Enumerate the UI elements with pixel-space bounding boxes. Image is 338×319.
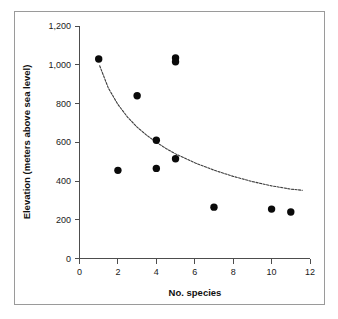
- data-points-group: [95, 54, 294, 215]
- data-point: [268, 205, 275, 212]
- y-tick-label: 800: [56, 99, 71, 109]
- data-point: [133, 92, 140, 99]
- x-axis-title: No. species: [169, 287, 222, 298]
- y-tick-label: 600: [56, 137, 71, 147]
- x-tick-label: 2: [115, 267, 120, 277]
- data-point: [210, 203, 217, 210]
- y-tick-label: 0: [66, 254, 71, 264]
- data-point: [287, 208, 294, 215]
- figure-root: 02004006008001,0001,200 024681012 No. sp…: [0, 0, 338, 319]
- data-point: [153, 165, 160, 172]
- x-tick-label: 0: [77, 267, 82, 277]
- data-point: [172, 58, 179, 65]
- data-point: [153, 137, 160, 144]
- trend-line: [100, 66, 303, 191]
- y-tick-label: 1,200: [48, 21, 71, 31]
- scatter-chart: 02004006008001,0001,200 024681012 No. sp…: [0, 0, 338, 319]
- y-tick-label: 400: [56, 176, 71, 186]
- data-point: [172, 155, 179, 162]
- x-tick-label: 6: [192, 267, 197, 277]
- x-tick-label: 4: [154, 267, 159, 277]
- data-point: [114, 167, 121, 174]
- y-tick-label: 1,000: [48, 60, 71, 70]
- x-tick-label: 12: [305, 267, 315, 277]
- x-axis-ticks: 024681012: [77, 259, 315, 278]
- x-tick-label: 10: [267, 267, 277, 277]
- x-tick-label: 8: [231, 267, 236, 277]
- y-axis-ticks: 02004006008001,0001,200: [48, 21, 79, 264]
- y-tick-label: 200: [56, 215, 71, 225]
- data-point: [95, 55, 102, 62]
- y-axis-title: Elevation (meters above sea level): [21, 65, 32, 220]
